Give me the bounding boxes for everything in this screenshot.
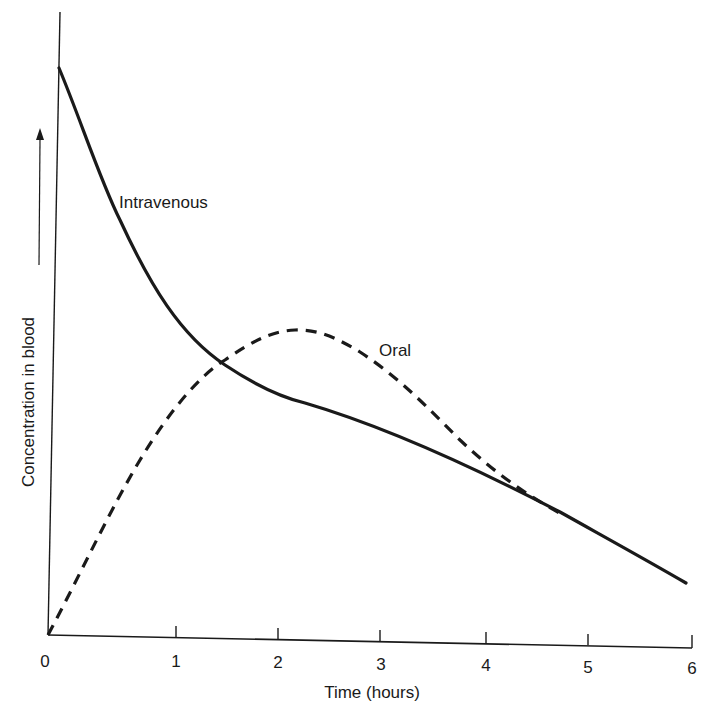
x-axis-title: Time (hours) <box>324 683 420 702</box>
x-tick-label-3: 3 <box>376 655 385 674</box>
series-oral-line <box>48 330 565 635</box>
x-tick-label-5: 5 <box>583 658 592 677</box>
y-axis-title: Concentration in blood <box>19 317 38 487</box>
x-tick-label-6: 6 <box>687 659 696 678</box>
x-axis <box>48 635 692 648</box>
x-tick-label-2: 2 <box>273 653 282 672</box>
x-tick-label-4: 4 <box>481 656 490 675</box>
oral-label: Oral <box>379 341 411 360</box>
x-tick-label-0: 0 <box>40 652 49 671</box>
y-axis <box>48 12 60 635</box>
pharmacokinetics-chart: 0 1 2 3 4 5 6 Time (hours) Concentration… <box>0 0 714 718</box>
intravenous-label: Intravenous <box>119 193 208 212</box>
arrow-up-icon <box>36 128 44 140</box>
y-axis-arrow-shaft <box>39 140 40 265</box>
series-intravenous-line <box>59 68 686 583</box>
x-tick-label-1: 1 <box>171 652 180 671</box>
